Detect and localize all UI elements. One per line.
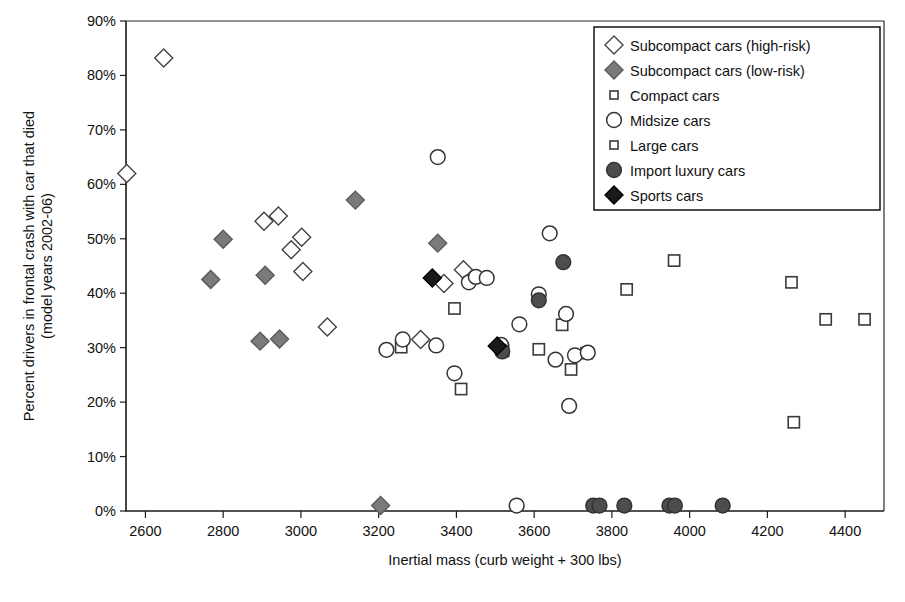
legend-label: Sports cars — [630, 188, 703, 204]
data-point — [548, 352, 563, 367]
x-tick-label: 2600 — [129, 523, 161, 539]
data-point — [155, 49, 173, 67]
y-axis-title-line1: Percent drivers in frontal crash with ca… — [21, 111, 37, 421]
y-tick-label: 50% — [87, 231, 116, 247]
series-large-cars — [621, 255, 870, 428]
y-tick-label: 60% — [87, 176, 116, 192]
y-tick-label: 10% — [87, 449, 116, 465]
legend-label: Import luxury cars — [630, 163, 745, 179]
data-point — [559, 307, 574, 322]
data-point — [449, 303, 460, 314]
data-point — [556, 255, 571, 270]
data-point — [293, 228, 311, 246]
data-point — [562, 399, 577, 414]
data-point — [509, 498, 524, 513]
data-point — [621, 284, 632, 295]
y-tick-label: 80% — [87, 67, 116, 83]
x-tick-label: 3800 — [596, 523, 628, 539]
x-tick-label: 4000 — [674, 523, 706, 539]
data-point — [294, 262, 312, 280]
y-tick-label: 90% — [87, 13, 116, 29]
legend-marker-circle-filled — [607, 163, 622, 178]
y-tick-label: 30% — [87, 340, 116, 356]
y-axis-title-line2: (model years 2002-06) — [39, 193, 55, 339]
legend-label: Large cars — [630, 138, 699, 154]
data-point — [592, 498, 607, 513]
legend-marker-circle-open — [607, 113, 622, 128]
data-point — [533, 344, 544, 355]
x-tick-label: 3600 — [518, 523, 550, 539]
data-point — [429, 338, 444, 353]
data-point — [118, 164, 136, 182]
legend-label: Midsize cars — [630, 113, 711, 129]
scatter-chart: 0%10%20%30%40%50%60%70%80%90%26002800300… — [0, 0, 905, 602]
data-point — [820, 314, 831, 325]
x-tick-label: 3000 — [285, 523, 317, 539]
series-midsize-cars — [379, 150, 595, 513]
data-point — [430, 150, 445, 165]
data-point — [395, 332, 410, 347]
series-subcompact-cars-high-risk — [118, 49, 473, 348]
data-point — [346, 191, 364, 209]
x-tick-label: 3200 — [363, 523, 395, 539]
x-tick-label: 2800 — [207, 523, 239, 539]
data-point — [715, 498, 730, 513]
y-axis-title: Percent drivers in frontal crash with ca… — [21, 111, 55, 421]
data-point — [202, 271, 220, 289]
x-tick-label: 4200 — [751, 523, 783, 539]
data-point — [256, 266, 274, 284]
y-tick-label: 20% — [87, 394, 116, 410]
data-point — [512, 317, 527, 332]
data-point — [412, 331, 430, 349]
data-point — [429, 234, 447, 252]
data-point — [668, 255, 679, 266]
x-tick-label: 4400 — [829, 523, 861, 539]
data-point — [271, 330, 289, 348]
x-tick-label: 3400 — [440, 523, 472, 539]
data-point — [379, 342, 394, 357]
data-point — [859, 314, 870, 325]
data-point — [667, 498, 682, 513]
data-point — [479, 271, 494, 286]
y-tick-label: 70% — [87, 122, 116, 138]
data-point — [282, 241, 300, 259]
legend: Subcompact cars (high-risk)Subcompact ca… — [594, 27, 880, 210]
chart-canvas: 0%10%20%30%40%50%60%70%80%90%26002800300… — [0, 0, 905, 602]
data-point — [542, 226, 557, 241]
data-point — [565, 364, 576, 375]
legend-marker-square-open-small — [610, 91, 618, 99]
data-point — [214, 230, 232, 248]
data-point — [580, 345, 595, 360]
data-point — [788, 417, 799, 428]
data-point — [372, 497, 390, 515]
y-tick-label: 40% — [87, 285, 116, 301]
series-import-luxury-cars — [495, 255, 730, 513]
data-point — [251, 332, 269, 350]
data-point — [531, 293, 546, 308]
data-point — [617, 498, 632, 513]
x-axis-title: Inertial mass (curb weight + 300 lbs) — [388, 552, 621, 568]
legend-label: Subcompact cars (low-risk) — [630, 63, 805, 79]
data-point — [447, 366, 462, 381]
y-tick-label: 0% — [95, 503, 116, 519]
data-point — [786, 277, 797, 288]
legend-marker-square-open-small — [610, 141, 618, 149]
data-point — [455, 383, 466, 394]
series-subcompact-cars-low-risk — [202, 191, 447, 514]
legend-label: Compact cars — [630, 88, 719, 104]
legend-label: Subcompact cars (high-risk) — [630, 38, 811, 54]
data-point — [318, 318, 336, 336]
